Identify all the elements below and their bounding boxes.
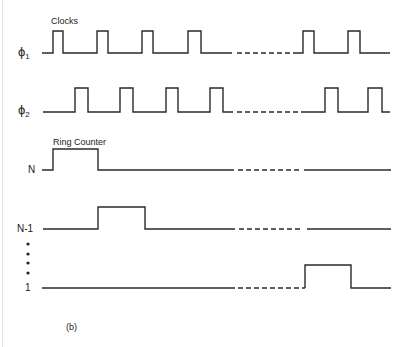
signal-n-minus-1: N-1 xyxy=(17,207,391,234)
signal-phi2: ϕ2 xyxy=(18,88,390,119)
ring-counter-heading: Ring Counter xyxy=(53,137,106,147)
figure-caption: (b) xyxy=(66,322,77,332)
phi1-label: ϕ1 xyxy=(18,44,30,61)
vertical-ellipsis xyxy=(26,242,29,274)
timing-diagram: Clocks Ring Counter ϕ1 ϕ2 N N-1 1 xyxy=(0,0,407,347)
phi1-waveform-right xyxy=(298,31,390,53)
phi2-label: ϕ2 xyxy=(18,102,30,119)
signal-n: N xyxy=(28,149,391,175)
signal-one: 1 xyxy=(25,265,391,293)
signal-phi1: ϕ1 xyxy=(18,31,390,61)
n-waveform-left xyxy=(42,149,234,170)
one-label: 1 xyxy=(25,282,31,293)
n-label: N xyxy=(28,164,35,175)
n-minus-1-waveform-left xyxy=(43,207,235,229)
clocks-heading: Clocks xyxy=(51,16,79,26)
phi2-waveform-left xyxy=(43,88,233,112)
one-waveform-right xyxy=(305,265,391,288)
phi2-waveform-right xyxy=(302,88,390,112)
phi1-waveform-left xyxy=(42,31,232,53)
n-minus-1-label: N-1 xyxy=(17,223,34,234)
